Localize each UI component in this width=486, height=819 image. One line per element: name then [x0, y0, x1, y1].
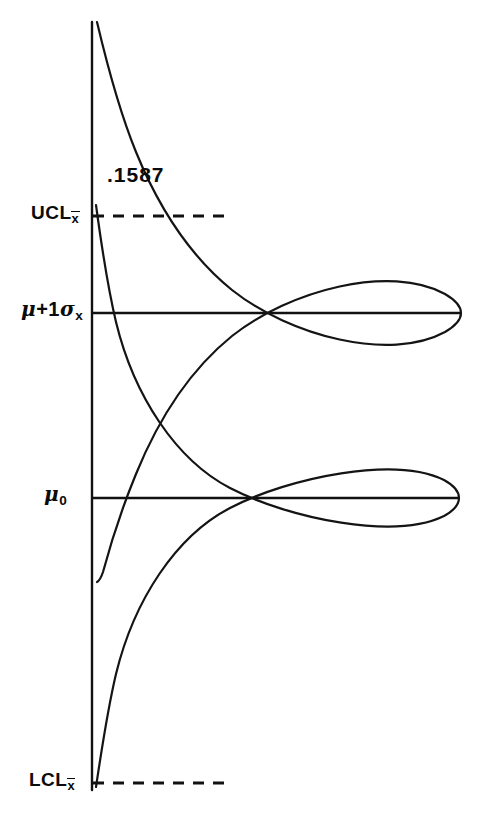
- ucl-subscript-xbar: x: [72, 213, 79, 226]
- mu-zero-glyph: μ: [44, 482, 59, 506]
- lcl-label-text: LCL: [29, 769, 67, 790]
- ucl-label-text: UCL: [31, 202, 72, 223]
- lcl-subscript-xbar: x: [67, 780, 74, 793]
- sigma-glyph: σ: [60, 297, 75, 321]
- plus-one-text: +1: [36, 298, 60, 320]
- mu-zero-axis-label: μ0: [44, 484, 67, 508]
- mu-glyph: μ: [21, 297, 36, 321]
- sigma-subscript-x: x: [75, 308, 83, 323]
- figure-container: UCLx μ+1σx μ0 LCLx .1587: [0, 0, 486, 819]
- mu-plus-sigma-axis-label: μ+1σx: [21, 299, 83, 323]
- tail-area-annotation: .1587: [107, 164, 165, 185]
- lcl-axis-label: LCLx: [29, 770, 75, 793]
- in-control-distribution-curve: [96, 205, 459, 787]
- ucl-axis-label: UCLx: [31, 203, 79, 226]
- distribution-plot-svg: [0, 0, 486, 819]
- mu-zero-subscript: 0: [59, 493, 67, 508]
